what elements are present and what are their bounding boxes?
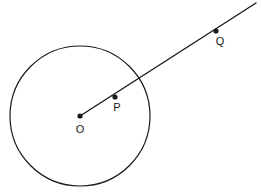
point-O-label: O — [76, 123, 85, 135]
point-Q-label: Q — [216, 35, 225, 47]
geometry-diagram: O P Q — [0, 0, 261, 196]
point-P-label: P — [113, 101, 120, 113]
point-Q-dot — [213, 28, 218, 33]
ray-OQ-line — [80, 3, 256, 116]
geometry-canvas: O P Q — [0, 0, 261, 196]
point-O-dot — [77, 113, 82, 118]
point-P-dot — [112, 94, 117, 99]
